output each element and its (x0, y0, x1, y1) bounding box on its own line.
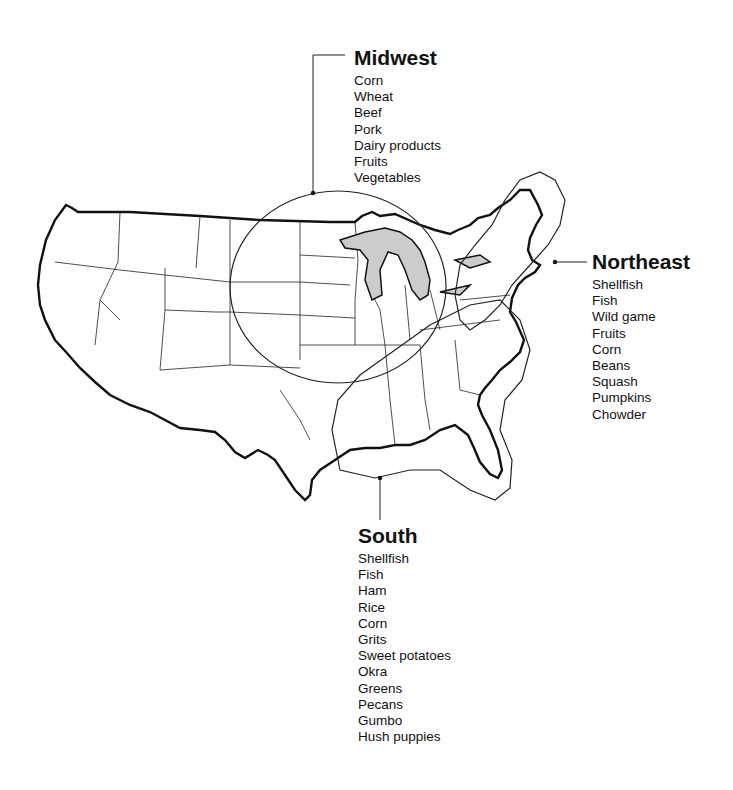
list-item: Wheat (354, 89, 441, 105)
list-item: Corn (358, 616, 451, 632)
state-lines (55, 212, 510, 445)
list-item: Grits (358, 632, 451, 648)
list-item: Fish (358, 567, 451, 583)
list-item: Chowder (592, 407, 690, 423)
list-item: Wild game (592, 309, 690, 325)
northeast-label: Northeast Shellfish Fish Wild game Fruit… (592, 250, 690, 423)
us-outline (38, 190, 542, 500)
list-item: Sweet potatoes (358, 648, 451, 664)
list-item: Okra (358, 664, 451, 680)
list-item: Vegetables (354, 170, 441, 186)
south-title: South (358, 524, 451, 548)
south-region-outline (332, 300, 530, 500)
midwest-label: Midwest Corn Wheat Beef Pork Dairy produ… (354, 46, 441, 186)
list-item: Rice (358, 600, 451, 616)
northeast-title: Northeast (592, 250, 690, 274)
list-item: Squash (592, 374, 690, 390)
list-item: Corn (354, 73, 441, 89)
list-item: Gumbo (358, 713, 451, 729)
list-item: Shellfish (592, 277, 690, 293)
list-item: Corn (592, 342, 690, 358)
list-item: Beef (354, 105, 441, 121)
list-item: Dairy products (354, 138, 441, 154)
list-item: Beans (592, 358, 690, 374)
list-item: Ham (358, 583, 451, 599)
midwest-leader-line (313, 55, 345, 193)
midwest-title: Midwest (354, 46, 441, 70)
list-item: Hush puppies (358, 729, 451, 745)
list-item: Pork (354, 122, 441, 138)
list-item: Shellfish (358, 551, 451, 567)
list-item: Fish (592, 293, 690, 309)
list-item: Greens (358, 681, 451, 697)
great-lakes (340, 228, 490, 300)
south-label: South Shellfish Fish Ham Rice Corn Grits… (358, 524, 451, 745)
list-item: Pecans (358, 697, 451, 713)
list-item: Pumpkins (592, 390, 690, 406)
list-item: Fruits (592, 326, 690, 342)
list-item: Fruits (354, 154, 441, 170)
